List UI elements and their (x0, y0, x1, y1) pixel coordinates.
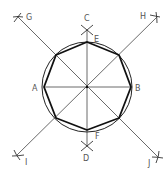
label-c: C (84, 14, 90, 23)
label-a: A (32, 84, 38, 93)
center-point (86, 86, 88, 88)
label-b: B (135, 84, 141, 93)
label-j: J (147, 159, 150, 168)
label-h: H (140, 12, 146, 21)
arc-mark-h (150, 12, 160, 23)
label-f: F (95, 132, 100, 141)
label-i: I (25, 158, 27, 167)
label-e: E (94, 35, 99, 44)
octagon-construction-diagram: G H C E A B F D I J (0, 0, 168, 172)
label-g: G (26, 13, 32, 22)
arc-mark-i (12, 150, 24, 160)
label-d: D (83, 154, 89, 163)
